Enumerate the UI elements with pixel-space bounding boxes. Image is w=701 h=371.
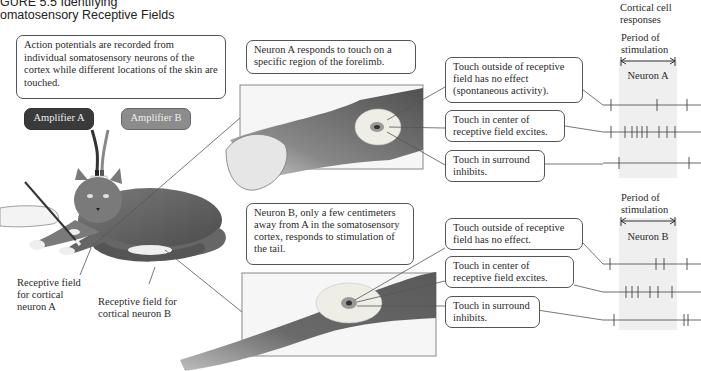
cortical-responses-header: Cortical cell responses — [620, 2, 700, 26]
neuron-b-callout-center: Touch in center of receptive field excit… — [445, 256, 574, 288]
neuron-b-period-label: Period of stimulation — [621, 192, 691, 216]
receptive-field-a-label: Receptive field for cortical neuron A — [17, 277, 91, 313]
neuron-a-callout-outside: Touch outside of receptive field has no … — [445, 57, 583, 103]
neuron-a-callout-surround: Touch in surround inhibits. — [445, 150, 545, 182]
neuron-b-callout-surround: Touch in surround inhibits. — [445, 296, 540, 328]
amplifier-b: Amplifier B — [121, 108, 191, 130]
neuron-b-description-box: Neuron B, only a few centimeters away fr… — [246, 203, 414, 265]
amplifier-a: Amplifier A — [24, 108, 94, 130]
intro-description-text: Action potentials are recorded from indi… — [24, 39, 218, 88]
amplifier-b-label: Amplifier B — [130, 112, 181, 123]
neuron-b-name: Neuron B — [618, 231, 678, 243]
amplifier-a-label: Amplifier A — [33, 112, 84, 123]
cat-illustration — [29, 168, 226, 258]
receptive-field-b-label: Receptive field for cortical neuron B — [98, 296, 208, 320]
neuron-a-description-box: Neuron A responds to touch on a specific… — [246, 40, 416, 74]
neuron-a-callout-center: Touch in center of receptive field excit… — [445, 110, 565, 142]
neuron-a-period-label: Period of stimulation — [621, 32, 691, 56]
forelimb-image — [226, 85, 423, 190]
tail-image — [180, 272, 436, 371]
neuron-b-callout-outside: Touch outside of receptive field has no … — [445, 218, 583, 250]
intro-description-box: Action potentials are recorded from indi… — [16, 35, 226, 99]
electrode-cables — [91, 130, 108, 180]
neuron-a-name: Neuron A — [618, 70, 678, 82]
